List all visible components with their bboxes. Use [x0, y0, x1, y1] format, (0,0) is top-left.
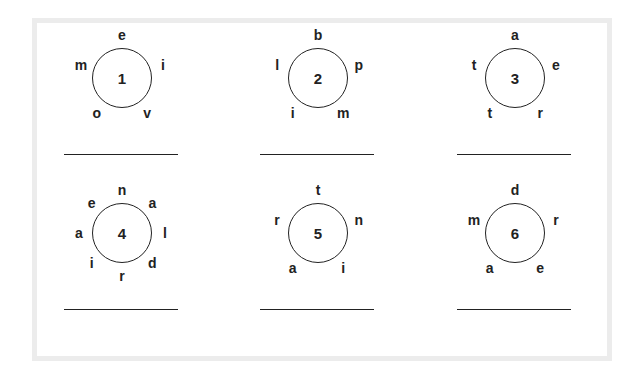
puzzle-number: 6: [485, 203, 545, 263]
scrambled-letter: t: [311, 182, 325, 198]
scrambled-letter: r: [115, 268, 129, 284]
scrambled-letter: e: [85, 195, 99, 211]
scrambled-letter: i: [85, 255, 99, 271]
scrambled-letter: v: [140, 105, 154, 121]
scrambled-letter: r: [533, 105, 547, 121]
scrambled-letter: a: [72, 225, 86, 241]
scrambled-letter: a: [145, 195, 159, 211]
puzzle-2: 2bpmil: [258, 15, 378, 175]
scrambled-letter: r: [270, 212, 284, 228]
scrambled-letter: t: [467, 57, 481, 73]
puzzle-number: 5: [288, 203, 348, 263]
answer-line[interactable]: [260, 309, 374, 310]
scrambled-letter: a: [508, 27, 522, 43]
scrambled-letter: p: [352, 57, 366, 73]
scrambled-letter: d: [145, 255, 159, 271]
scrambled-letter: o: [90, 105, 104, 121]
puzzle-1: 1eivom: [62, 15, 182, 175]
puzzle-6: 6dream: [455, 170, 575, 330]
scrambled-letter: i: [156, 57, 170, 73]
scrambled-letter: i: [286, 105, 300, 121]
scrambled-letter: a: [483, 260, 497, 276]
scrambled-letter: b: [311, 27, 325, 43]
scrambled-letter: n: [115, 182, 129, 198]
scrambled-letter: m: [467, 212, 481, 228]
scrambled-letter: l: [270, 57, 284, 73]
scrambled-letter: e: [549, 57, 563, 73]
scrambled-letter: d: [508, 182, 522, 198]
scrambled-letter: r: [549, 212, 563, 228]
puzzle-number: 1: [92, 48, 152, 108]
answer-line[interactable]: [457, 309, 571, 310]
scrambled-letter: a: [286, 260, 300, 276]
scrambled-letter: n: [352, 212, 366, 228]
scrambled-letter: l: [158, 225, 172, 241]
scrambled-letter: m: [336, 105, 350, 121]
answer-line[interactable]: [64, 154, 178, 155]
puzzle-3: 3aertt: [455, 15, 575, 175]
puzzle-number: 4: [92, 203, 152, 263]
answer-line[interactable]: [260, 154, 374, 155]
puzzle-4: 4naldriae: [62, 170, 182, 330]
scrambled-letter: m: [74, 57, 88, 73]
answer-line[interactable]: [457, 154, 571, 155]
puzzle-5: 5tniar: [258, 170, 378, 330]
puzzle-number: 3: [485, 48, 545, 108]
scrambled-letter: i: [336, 260, 350, 276]
scrambled-letter: e: [115, 27, 129, 43]
scrambled-letter: t: [483, 105, 497, 121]
scrambled-letter: e: [533, 260, 547, 276]
puzzle-number: 2: [288, 48, 348, 108]
answer-line[interactable]: [64, 309, 178, 310]
